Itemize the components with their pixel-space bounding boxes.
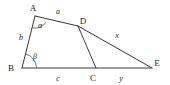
edge-DC — [78, 26, 96, 68]
side-label-b: b — [19, 33, 23, 42]
geometry-figure-container: A B C D E a b c x y α β — [0, 0, 170, 85]
geometry-diagram: A B C D E a b c x y α β — [0, 0, 170, 85]
side-label-c: c — [56, 74, 60, 83]
vertex-label-A: A — [30, 3, 37, 13]
vertex-label-C: C — [90, 73, 96, 83]
side-label-y: y — [118, 74, 123, 83]
side-label-a: a — [56, 7, 60, 16]
vertex-label-B: B — [8, 63, 14, 73]
side-label-x: x — [114, 31, 119, 40]
vertex-label-D: D — [80, 16, 87, 26]
angle-label-beta: β — [32, 52, 37, 61]
vertex-label-E: E — [154, 58, 160, 68]
angle-label-alpha: α — [38, 21, 43, 30]
